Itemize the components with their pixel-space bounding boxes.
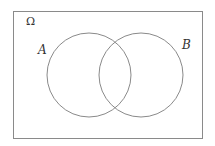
set-b-label: B [181,38,191,52]
set-a-label: A [37,43,47,57]
set-b-circle [99,33,183,117]
universe-label: Ω [26,15,35,28]
universe-rectangle [14,12,203,139]
venn-diagram: Ω A B [0,0,215,146]
set-a-circle [47,33,131,117]
